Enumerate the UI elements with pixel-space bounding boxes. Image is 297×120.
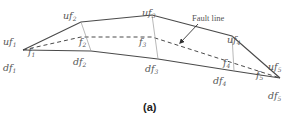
label-f3: f3 xyxy=(138,36,147,48)
label-f2: f2 xyxy=(78,36,87,48)
fault-diagram: Fault line uf1 uf2 uf3 uf4 uf5 df1 df2 d… xyxy=(0,0,297,120)
label-df1: df1 xyxy=(3,62,16,74)
label-uf1: uf1 xyxy=(3,36,16,48)
label-uf4: uf4 xyxy=(227,34,241,46)
label-f1: f1 xyxy=(27,46,35,58)
label-df5: df5 xyxy=(268,90,282,102)
connector-3 xyxy=(152,15,158,59)
fault-line-label: Fault line xyxy=(192,13,225,23)
label-df3: df3 xyxy=(145,63,159,75)
fault-line-arrow xyxy=(181,24,198,42)
label-f5: f5 xyxy=(255,69,264,81)
figure-caption: (a) xyxy=(143,101,157,113)
label-uf2: uf2 xyxy=(63,10,77,22)
label-uf5: uf5 xyxy=(268,61,282,73)
label-df2: df2 xyxy=(73,56,87,68)
label-f4: f4 xyxy=(222,57,231,69)
label-uf3: uf3 xyxy=(142,7,156,19)
label-df4: df4 xyxy=(213,75,227,87)
